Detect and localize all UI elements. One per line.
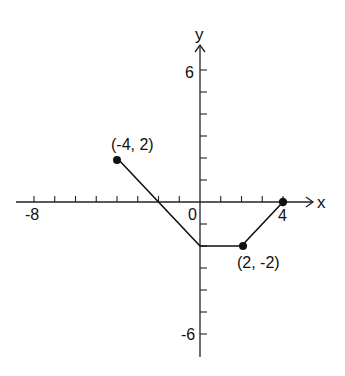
y-axis-label: y	[195, 26, 204, 43]
tick-label-y-6: 6	[185, 65, 194, 81]
tick-label-x-neg8: -8	[25, 207, 39, 223]
function-graph	[0, 0, 345, 376]
tick-label-x-4: 4	[278, 208, 287, 224]
point-neg4-2	[113, 156, 121, 164]
point-4-0	[279, 198, 287, 206]
tick-label-y-neg6: -6	[181, 327, 195, 343]
x-axis	[16, 197, 313, 207]
origin-label: 0	[188, 207, 197, 223]
point-label-neg4-2: (-4, 2)	[111, 137, 154, 153]
point-2-neg2	[239, 242, 247, 250]
point-label-2-neg2: (2, -2)	[237, 255, 280, 271]
x-axis-label: x	[317, 194, 326, 211]
